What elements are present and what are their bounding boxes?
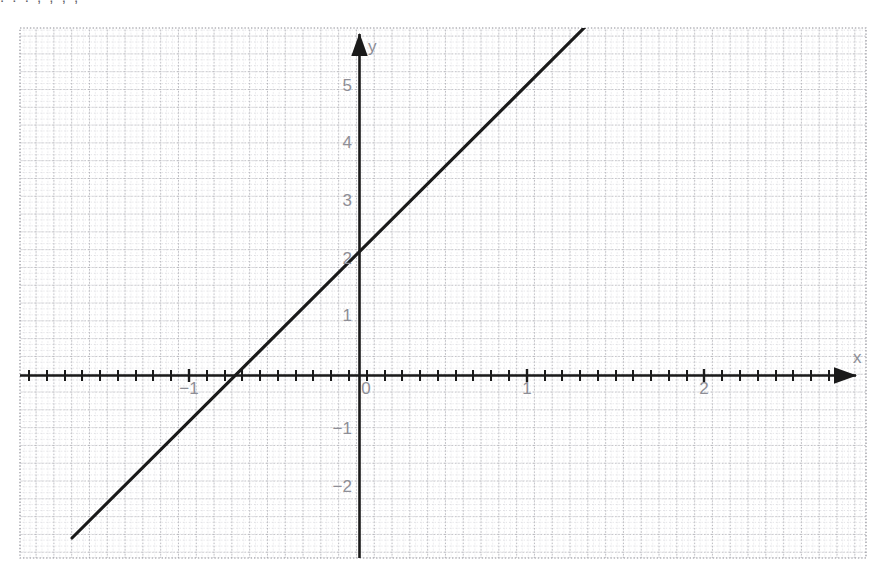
y-tick-label: −1 (333, 419, 352, 438)
origin-label: 0 (361, 379, 370, 398)
y-tick-label: −2 (333, 477, 352, 496)
y-tick-label: 4 (343, 133, 352, 152)
x-tick-label: −1 (179, 379, 198, 398)
coordinate-plot: −1 0 1 2 5 4 3 2 1 −1 −2 y x (0, 0, 881, 564)
y-tick-label: 1 (343, 306, 352, 325)
plot-svg: −1 0 1 2 5 4 3 2 1 −1 −2 y x (0, 0, 881, 564)
graph-paper-figure: . . . , , , , (0, 0, 881, 564)
y-tick-label: 3 (343, 191, 352, 210)
x-tick-label: 2 (699, 379, 708, 398)
x-axis-label: x (853, 348, 862, 367)
y-tick-label: 5 (343, 76, 352, 95)
y-axis-label: y (368, 37, 377, 56)
grid-major (20, 28, 866, 558)
x-tick-label: 1 (522, 379, 531, 398)
y-tick-label: 2 (343, 249, 352, 268)
